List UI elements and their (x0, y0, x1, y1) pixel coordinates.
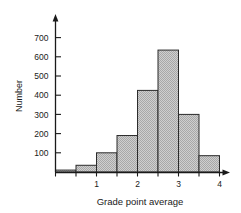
bars-group (56, 50, 220, 172)
histogram-bar (76, 165, 97, 172)
y-tick-label: 300 (34, 110, 48, 120)
x-tick-label: 1 (94, 179, 99, 189)
y-ticks-group: 100200300400500600700 (34, 33, 61, 158)
x-ticks-group: 1234 (56, 172, 223, 189)
histogram-bar (158, 50, 179, 172)
y-tick-label: 200 (34, 129, 48, 139)
y-axis-arrowhead (53, 14, 59, 22)
histogram-bar (97, 153, 118, 172)
x-tick-label: 4 (217, 179, 222, 189)
chart-canvas: 100200300400500600700 1234 Number Grade … (0, 0, 241, 213)
histogram-bar (138, 90, 159, 172)
y-axis-label: Number (14, 80, 24, 112)
y-tick-label: 400 (34, 90, 48, 100)
histogram-bar (179, 114, 200, 172)
histogram-bar (56, 170, 77, 172)
y-tick-label: 500 (34, 71, 48, 81)
histogram-bar (117, 136, 138, 172)
x-axis-arrowhead (223, 170, 231, 176)
y-tick-label: 600 (34, 52, 48, 62)
x-tick-label: 3 (176, 179, 181, 189)
y-tick-label: 100 (34, 148, 48, 158)
x-tick-label: 2 (135, 179, 140, 189)
x-axis-label: Grade point average (97, 196, 184, 207)
histogram-figure: 100200300400500600700 1234 Number Grade … (0, 0, 241, 213)
y-tick-label: 700 (34, 33, 48, 43)
histogram-bar (199, 156, 220, 172)
